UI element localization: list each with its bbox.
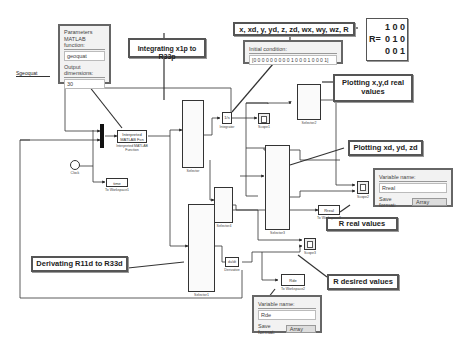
matlab-function-label: MATLAB function:: [64, 35, 105, 50]
rde-var-field[interactable]: Rde: [258, 310, 316, 320]
rreal-workspace-dialog: Variable name: Rreal Save format: Array: [373, 168, 453, 207]
output-dimensions-label: Output dimensions:: [64, 63, 105, 78]
selector1-label: Selector1: [188, 293, 215, 297]
initial-condition-dialog: Initial condition: [0 0 0 0 0 0 0 0 0 1 …: [243, 40, 343, 64]
initial-condition-label: Initial condition:: [249, 45, 337, 54]
rde-workspace-dialog: Variable name: Rde Save format: Array: [252, 295, 322, 333]
rreal-format-select[interactable]: Array: [412, 198, 447, 206]
matrix-row-1: 1 0 0: [385, 22, 405, 32]
rreal-format-label: Save format:: [379, 196, 409, 208]
selector2-label: Selector2: [296, 121, 322, 125]
callout-r-desired: R desired values: [327, 274, 399, 290]
callout-plot-desired: Plotting xd, yd, zd: [348, 140, 423, 156]
output-dimensions-field[interactable]: 30: [64, 79, 105, 89]
rreal-to-workspace-block[interactable]: Rreal: [318, 205, 340, 215]
selector4-label: Selector4: [212, 224, 236, 228]
selector2-block[interactable]: [297, 84, 321, 120]
matrix-row-3: 0 0 1: [385, 46, 405, 56]
selector-label: Selector: [180, 169, 206, 173]
callout-derivating: Derivating R11d to R33d: [31, 256, 128, 272]
time-to-workspace-label: To Workspace1: [100, 188, 134, 192]
rotation-matrix-box: 1 0 0 R= 0 1 0 0 0 1: [366, 18, 408, 61]
matrix-prefix: R=: [369, 34, 381, 44]
clock-icon[interactable]: [70, 160, 80, 170]
scope1-block[interactable]: [258, 113, 270, 124]
parameters-dialog: Parameters MATLAB function: geoquat Outp…: [58, 24, 111, 84]
scope3-block[interactable]: [304, 238, 316, 250]
interpreted-matlab-fcn-label: Interpreted MATLAB Function: [110, 144, 154, 152]
callout-state-vector: x, xd, y, yd, z, zd, wx, wy, wz, R: [233, 22, 355, 36]
rde-to-workspace-label: To Workspace2: [276, 287, 310, 291]
callout-integrating: Integrating x1p to R33p: [128, 38, 206, 58]
initial-condition-field[interactable]: [0 0 0 0 0 0 0 0 0 1 0 0 0 1 0 0 0 1]: [249, 55, 337, 65]
integrator-label: Integrator: [218, 125, 236, 129]
scope2-label: Scope2: [354, 195, 372, 199]
derivative-label: Derivative: [220, 268, 244, 272]
selector3-label: Selector3: [264, 231, 291, 235]
scope3-label: Scope3: [301, 251, 319, 255]
rde-var-label: Variable name:: [258, 300, 316, 309]
callout-plot-real: Plotting x,y,d real values: [333, 74, 413, 102]
scope2-block[interactable]: [357, 181, 369, 194]
selector4-block[interactable]: [214, 187, 233, 223]
selector3-block[interactable]: [265, 145, 290, 230]
rreal-var-field[interactable]: Rreal: [379, 183, 447, 193]
rde-format-select[interactable]: Array: [286, 325, 316, 333]
selector-block[interactable]: [182, 100, 204, 168]
rde-to-workspace-block[interactable]: Rde: [281, 274, 305, 286]
selector1-block[interactable]: [188, 204, 215, 292]
time-to-workspace-block[interactable]: time: [106, 178, 128, 187]
integrator-block[interactable]: 1/s: [222, 112, 232, 124]
clock-label: Clock: [66, 171, 84, 175]
rde-format-label: Save format:: [258, 323, 283, 335]
rreal-to-workspace-label: To Workspace3: [312, 216, 346, 220]
matrix-row-2: 0 1 0: [385, 34, 405, 44]
model-port-label: Sgeoquat: [16, 70, 50, 77]
rreal-var-label: Variable name:: [379, 173, 447, 182]
interpreted-matlab-fcn-block[interactable]: Interpreted MATLAB Fcn: [117, 130, 147, 143]
derivative-block[interactable]: du/dt: [225, 257, 239, 267]
scope1-label: Scope1: [255, 125, 273, 129]
matlab-function-field[interactable]: geoquat: [64, 51, 105, 61]
